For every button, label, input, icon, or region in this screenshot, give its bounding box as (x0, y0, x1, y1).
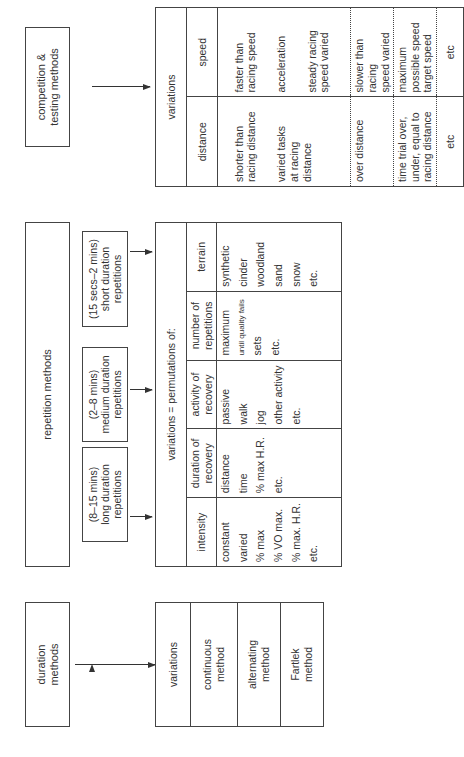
col-header-distance: distance (187, 97, 218, 187)
speed-row-2: slower than racing speed varied (351, 8, 394, 98)
repetition-subtype-label: (15 secs–2 mins) short duration repetiti… (87, 239, 123, 319)
col-header-duration-of-recovery: duration of recovery (187, 429, 217, 498)
repetition-variations-title: variations = permutations of: (156, 223, 187, 567)
duration-arrow (75, 664, 155, 665)
terrain-values: synthetic cinder woodland sand snow etc. (217, 223, 342, 292)
duration-item: continuous method (191, 603, 238, 727)
intensity-values: constant varied % max % VO max. % max. H… (217, 498, 342, 567)
col-header-terrain: terrain (187, 223, 217, 292)
speed-row-3: maximum possible speed target speed (394, 8, 437, 98)
col-header-activity-of-recovery: activity of recovery (187, 360, 217, 429)
repetition-methods-box: repetition methods (25, 222, 70, 567)
distance-row-etc: etc (436, 97, 463, 187)
repetition-subtype-short: (15 secs–2 mins) short duration repetiti… (82, 231, 128, 327)
activity-of-recovery-values: passive walk jog other activity etc. (217, 360, 342, 429)
col-header-speed: speed (187, 8, 218, 98)
distance-row-3: time trial over, under, equal to racing … (394, 97, 437, 187)
competition-variations-table: variations distance speed shorter than r… (155, 7, 464, 187)
duration-item: alternating method (238, 603, 281, 727)
competition-arrow (92, 86, 150, 87)
col-header-intensity: intensity (187, 498, 217, 567)
number-of-repetitions-values: maximum until quality fails sets etc. (217, 291, 342, 360)
distance-row-2: over distance (351, 97, 394, 187)
repetition-subtype-label: (2–8 mins) medium duration repetitions (87, 355, 123, 433)
arrow-medium (130, 389, 152, 390)
repetition-variations-table: variations = permutations of: intensity … (155, 222, 342, 567)
speed-row-1: faster than racing speed acceleration st… (218, 8, 351, 98)
duration-variations-table: variations continuous method alternating… (155, 602, 324, 727)
distance-row-1: shorter than racing distance varied task… (218, 97, 351, 187)
speed-row-etc: etc (436, 8, 463, 98)
duration-item: Fartlek method (281, 603, 324, 727)
duration-of-recovery-values: distance time % max H.R. etc. (217, 429, 342, 498)
competition-methods-box: competition & testing methods (25, 27, 70, 147)
duration-methods-box: duration methods (25, 602, 70, 727)
arrow-long (130, 516, 152, 517)
duration-variations-header: variations (156, 603, 191, 727)
repetition-subtype-long: (8–15 mins) long duration repetitions (82, 447, 128, 542)
repetition-subtype-medium: (2–8 mins) medium duration repetitions (82, 347, 128, 442)
duration-methods-title: duration methods (35, 643, 60, 685)
arrow-short (130, 251, 152, 252)
repetition-subtype-label: (8–15 mins) long duration repetitions (87, 464, 123, 525)
competition-methods-title: competition & testing methods (35, 48, 60, 126)
repetition-methods-title: repetition methods (41, 349, 54, 440)
competition-variations-title: variations (156, 8, 187, 187)
col-header-number-of-repetitions: number of repetitions (187, 291, 217, 360)
